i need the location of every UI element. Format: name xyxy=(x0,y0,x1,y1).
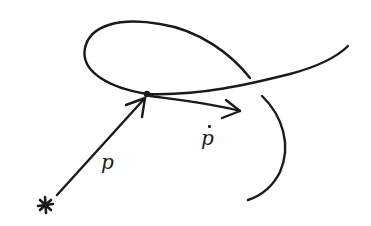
velocity-label: p xyxy=(201,128,214,148)
curve-tail xyxy=(147,46,348,94)
diagram-canvas xyxy=(0,0,371,226)
curve-loop xyxy=(84,22,250,94)
point-marker xyxy=(144,91,150,97)
velocity-dot-accent xyxy=(208,125,211,128)
velocity-vector xyxy=(150,96,240,111)
position-vector xyxy=(57,98,145,195)
position-label: p xyxy=(101,152,114,172)
origin-star-icon xyxy=(38,197,53,213)
curve-arc xyxy=(248,96,285,200)
